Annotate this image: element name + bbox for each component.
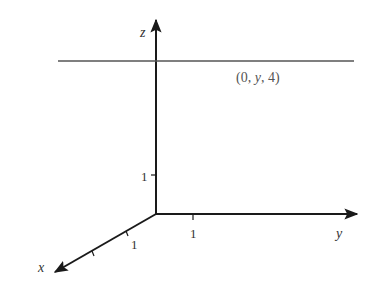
line-label-open: (0, <box>236 70 255 86</box>
diagram-canvas: z 1 1 y 1 x (0, y, 4) <box>0 0 367 297</box>
y-axis <box>156 214 357 220</box>
y-tick-label: 1 <box>190 226 197 241</box>
x-tick-2 <box>92 251 94 256</box>
x-axis-label: x <box>37 260 45 275</box>
x-tick-label: 1 <box>131 237 138 252</box>
y-axis-label: y <box>334 226 343 241</box>
z-tick-label: 1 <box>141 169 148 184</box>
line-label: (0, y, 4) <box>236 70 280 86</box>
z-axis-label: z <box>139 25 146 40</box>
line-label-close: , 4) <box>261 70 280 86</box>
z-axis <box>151 20 156 214</box>
x-axis <box>55 214 156 272</box>
